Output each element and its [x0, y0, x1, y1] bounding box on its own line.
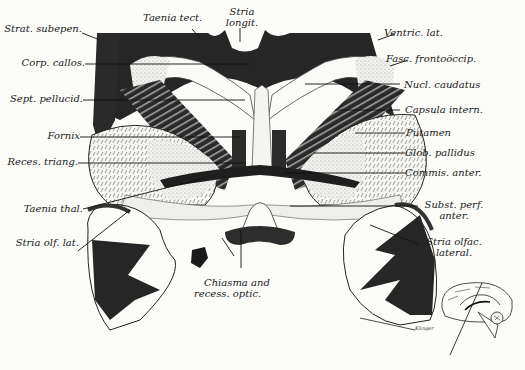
temporal-lobe-right — [343, 204, 436, 325]
label-stria-olfac-lateral: Stria olfac. lateral. — [418, 236, 490, 258]
inset-brain-medial-view — [442, 283, 512, 355]
label-strat-subepen: Strat. subepen. — [4, 23, 82, 34]
dark-nodule — [191, 247, 208, 268]
label-ventric-lat: Ventric. lat. — [384, 27, 443, 38]
label-chiasma-line1: Chiasma and — [194, 277, 270, 288]
label-stria-olf-lat: Stria olf. lat. — [16, 237, 79, 248]
label-taenia-thal: Taenia thal. — [24, 203, 83, 214]
label-taenia-tect: Taenia tect. — [143, 12, 202, 23]
label-sept-pellucid: Sept. pellucid. — [10, 93, 83, 104]
label-commis-anter: Commis. anter. — [405, 167, 482, 178]
label-fasc-frontooccip: Fasc. frontoöccip. — [386, 53, 476, 64]
label-reces-triang: Reces. triang. — [8, 156, 78, 167]
label-stria-longit-line1: Stria — [222, 6, 262, 17]
label-subst-perf-anter: Subst. perf. anter. — [418, 199, 490, 221]
label-glob-pallidus: Glob. pallidus — [405, 147, 475, 158]
label-stria-olfac-line1: Stria olfac. — [418, 236, 490, 247]
label-putamen: Putamen — [406, 127, 451, 138]
label-subst-perf-line1: Subst. perf. — [418, 199, 490, 210]
label-fornix: Fornix — [48, 130, 80, 141]
label-subst-perf-line2: anter. — [418, 210, 490, 221]
label-stria-longit-line2: longit. — [222, 17, 262, 28]
artist-signature: Klinger — [414, 325, 434, 332]
label-capsula-intern: Capsula intern. — [405, 104, 483, 115]
label-chiasma-recess-optic: Chiasma and recess. optic. — [194, 277, 270, 299]
label-stria-longit: Stria longit. — [222, 6, 262, 28]
label-corp-callos: Corp. callos. — [21, 57, 85, 68]
label-stria-olfac-line2: lateral. — [418, 247, 490, 258]
label-nucl-caudatus: Nucl. caudatus — [404, 79, 480, 90]
temporal-lobe-left — [88, 204, 176, 330]
label-chiasma-line2: recess. optic. — [194, 288, 270, 299]
brain-coronal-section-figure: Klinger Strat. subepen. Corp. callos. Se… — [0, 0, 525, 370]
